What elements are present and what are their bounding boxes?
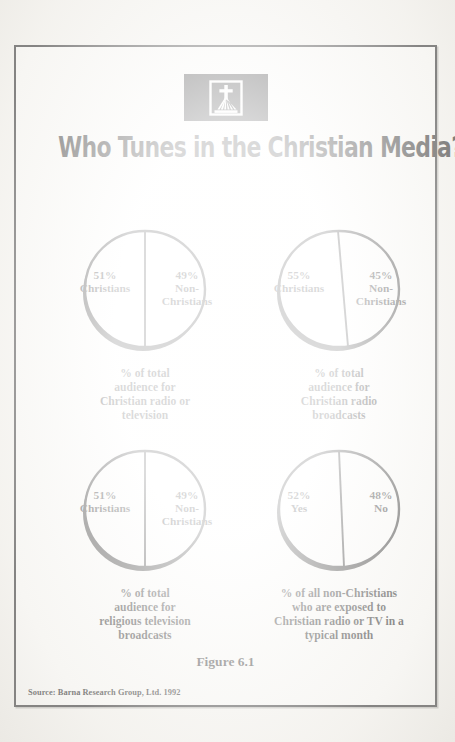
logo-container [16, 74, 435, 121]
pie-chart-2: 51% Christians 49% Non- Christians % of … [50, 443, 240, 643]
slice-label-right-3: 48% No [348, 489, 414, 515]
pie-caption-1: % of total audience for Christian radio … [244, 367, 434, 423]
cross-emblem-icon [184, 74, 268, 121]
pie-graphic-2: 51% Christians 49% Non- Christians [50, 443, 240, 575]
slice-label-left-2: 51% Christians [74, 489, 136, 515]
pie-caption-0: % of total audience for Christian radio … [50, 367, 240, 423]
pie-caption-3: % of all non-Christians who are exposed … [244, 587, 434, 643]
source-citation: Source: Barna Research Group, Ltd. 1992 [28, 688, 180, 697]
figure-label: Figure 6.1 [16, 654, 435, 670]
slice-label-left-0: 51% Christians [74, 269, 136, 295]
page-border-frame: Who Tunes in the Christian Media? 51% Ch… [14, 45, 437, 707]
pie-graphic-3: 52% Yes 48% No [244, 443, 434, 575]
slice-label-right-0: 49% Non- Christians [154, 269, 220, 307]
scanned-page: Who Tunes in the Christian Media? 51% Ch… [0, 0, 455, 742]
pie-caption-2: % of total audience for religious televi… [50, 587, 240, 643]
pie-chart-3: 52% Yes 48% No % of all non-Christians w… [244, 443, 434, 643]
slice-label-right-2: 49% Non- Christians [154, 489, 220, 527]
slice-label-left-3: 52% Yes [268, 489, 330, 515]
pie-graphic-0: 51% Christians 49% Non- Christians [50, 223, 240, 355]
slice-label-right-1: 45% Non- Christians [348, 269, 414, 307]
pie-graphic-1: 55% Christians 45% Non- Christians [244, 223, 434, 355]
slice-label-left-1: 55% Christians [268, 269, 330, 295]
page-title: Who Tunes in the Christian Media? [58, 131, 393, 163]
pie-chart-1: 55% Christians 45% Non- Christians % of … [244, 223, 434, 423]
pie-chart-0: 51% Christians 49% Non- Christians % of … [50, 223, 240, 423]
